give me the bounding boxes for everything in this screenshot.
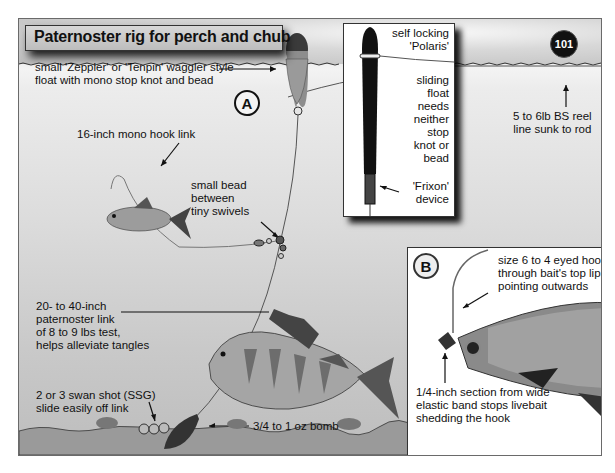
paternoster-label: 20- to 40-inch paternoster link of 8 to … bbox=[36, 300, 149, 352]
marker-a: A bbox=[234, 90, 260, 116]
swivels-and-bead bbox=[254, 236, 286, 259]
float-label: small 'Zeppler' or 'Tenpin' waggler styl… bbox=[35, 61, 234, 87]
inset-hook-detail: B size 6 to 4 eyed hook through bait's t… bbox=[407, 247, 602, 456]
chub-livebait bbox=[107, 197, 191, 239]
hook-link-label: 16-inch mono hook link bbox=[77, 128, 195, 141]
perch-fish bbox=[209, 309, 399, 419]
swan-shot-label: 2 or 3 swan shot (SSG) slide easily off … bbox=[36, 389, 156, 415]
diagram-frame: Paternoster rig for perch and chub 101 s… bbox=[18, 18, 602, 456]
title-box: Paternoster rig for perch and chub bbox=[25, 25, 283, 51]
marker-b: B bbox=[413, 253, 439, 279]
reel-line-label: 5 to 6lb BS reel line sunk to rod bbox=[513, 110, 592, 136]
frixon-label: 'Frixon' device bbox=[413, 180, 449, 206]
inset-polaris-float: self locking 'Polaris' sliding float nee… bbox=[343, 23, 455, 217]
sliding-float-label: sliding float needs neither stop knot or… bbox=[414, 74, 449, 165]
bead-label: small bead between tiny swivels bbox=[191, 179, 249, 218]
page-number-badge: 101 bbox=[550, 30, 578, 58]
swan-shot bbox=[139, 423, 169, 434]
polaris-label: self locking 'Polaris' bbox=[392, 27, 449, 53]
page-title: Paternoster rig for perch and chub bbox=[34, 28, 290, 46]
bomb-label: 3/4 to 1 oz bomb bbox=[253, 420, 339, 433]
elastic-band-label: 1/4-inch section from wide elastic band … bbox=[416, 386, 550, 425]
hook-size-label: size 6 to 4 eyed hook through bait's top… bbox=[498, 254, 602, 293]
